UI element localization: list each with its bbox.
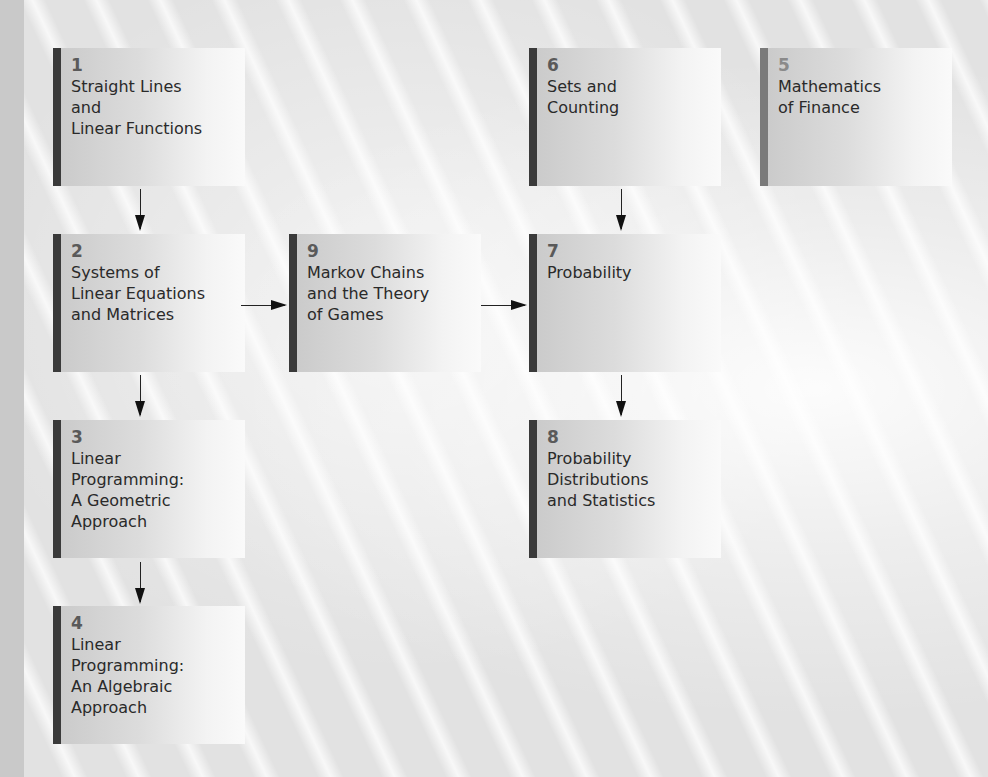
arrow-down-icon <box>140 562 141 602</box>
chapter-title: Markov Chains and the Theory of Games <box>307 262 481 325</box>
chapter-box-9: 9 Markov Chains and the Theory of Games <box>289 234 481 372</box>
chapter-box-2: 2 Systems of Linear Equations and Matric… <box>53 234 245 372</box>
chapter-box-1: 1 Straight Lines and Linear Functions <box>53 48 245 186</box>
chapter-box-4: 4 Linear Programming: An Algebraic Appro… <box>53 606 245 744</box>
chapter-title: Linear Programming: An Algebraic Approac… <box>71 634 245 718</box>
arrow-down-icon <box>621 375 622 415</box>
chapter-box-7: 7 Probability <box>529 234 721 372</box>
chapter-title: Systems of Linear Equations and Matrices <box>71 262 245 325</box>
chapter-box-8: 8 Probability Distributions and Statisti… <box>529 420 721 558</box>
chapter-box-5: 5 Mathematics of Finance <box>760 48 952 186</box>
chapter-title: Mathematics of Finance <box>778 76 952 118</box>
arrow-right-icon <box>481 305 525 306</box>
chapter-number: 1 <box>71 54 245 76</box>
chapter-number: 3 <box>71 426 245 448</box>
chapter-number: 7 <box>547 240 721 262</box>
chapter-title: Probability <box>547 262 721 283</box>
chapter-number: 4 <box>71 612 245 634</box>
chapter-number: 8 <box>547 426 721 448</box>
chapter-title: Straight Lines and Linear Functions <box>71 76 245 139</box>
arrow-down-icon <box>140 189 141 229</box>
chapter-box-6: 6 Sets and Counting <box>529 48 721 186</box>
chapter-title: Sets and Counting <box>547 76 721 118</box>
chapter-number: 2 <box>71 240 245 262</box>
chapter-title: Linear Programming: A Geometric Approach <box>71 448 245 532</box>
chapter-number: 5 <box>778 54 952 76</box>
arrow-down-icon <box>621 189 622 229</box>
arrow-right-icon <box>241 305 285 306</box>
chapter-number: 9 <box>307 240 481 262</box>
arrow-down-icon <box>140 375 141 415</box>
left-margin-strip <box>0 0 24 777</box>
chapter-number: 6 <box>547 54 721 76</box>
chapter-title: Probability Distributions and Statistics <box>547 448 721 511</box>
chapter-box-3: 3 Linear Programming: A Geometric Approa… <box>53 420 245 558</box>
